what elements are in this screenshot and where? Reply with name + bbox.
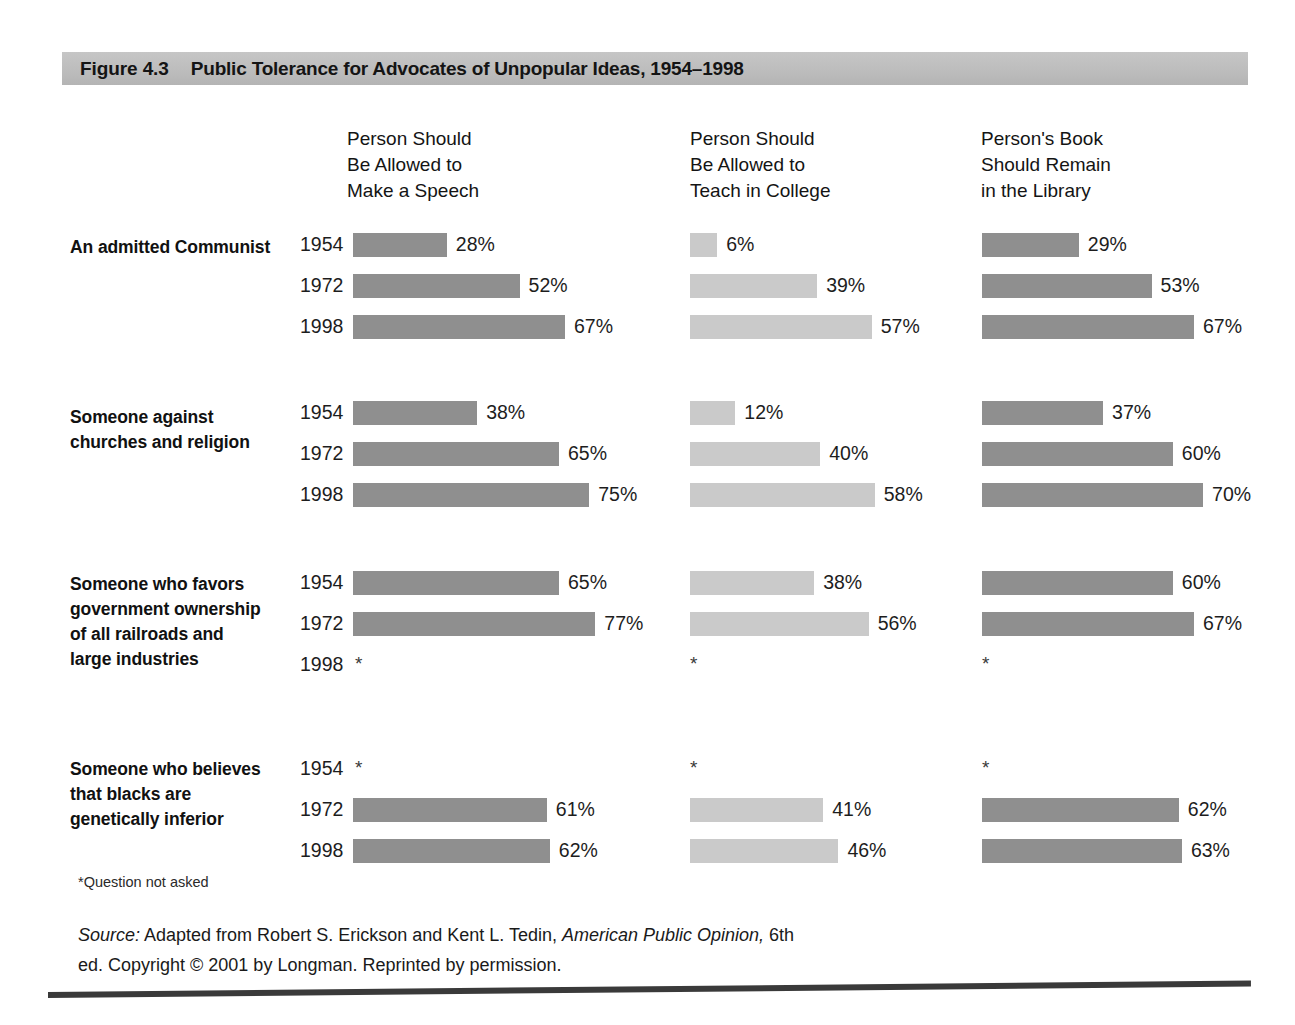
bar-value-label: 38% [823, 566, 862, 599]
source-note: Source: Adapted from Robert S. Erickson … [78, 920, 818, 980]
column-header-teach-in-college: Person Should Be Allowed to Teach in Col… [690, 126, 830, 204]
chart-row: 197265%40%60% [0, 437, 1295, 470]
figure-title: Public Tolerance for Advocates of Unpopu… [191, 58, 744, 80]
source-label: Source: [78, 925, 140, 945]
row-year-label: 1998 [300, 834, 346, 867]
bar [982, 798, 1179, 822]
bar [353, 612, 595, 636]
bar [982, 401, 1103, 425]
chart-row: 195438%12%37% [0, 396, 1295, 429]
source-book-title: American Public Opinion, [562, 925, 764, 945]
row-year-label: 1972 [300, 793, 346, 826]
no-data-asterisk: * [355, 752, 362, 783]
bar-value-label: 65% [568, 566, 607, 599]
bar [353, 798, 547, 822]
chart-row: 195428%6%29% [0, 228, 1295, 261]
chart-row: 1998*** [0, 648, 1295, 681]
chart-row: 197252%39%53% [0, 269, 1295, 302]
bar-value-label: 52% [529, 269, 568, 302]
bar [690, 483, 875, 507]
row-year-label: 1972 [300, 437, 346, 470]
bar-value-label: 62% [559, 834, 598, 867]
bar-value-label: 67% [1203, 310, 1242, 343]
no-data-asterisk: * [355, 648, 362, 679]
bar [982, 571, 1173, 595]
bar-value-label: 60% [1182, 437, 1221, 470]
column-header-make-a-speech: Person Should Be Allowed to Make a Speec… [347, 126, 479, 204]
bar-value-label: 65% [568, 437, 607, 470]
bar-value-label: 40% [829, 437, 868, 470]
bar-value-label: 28% [456, 228, 495, 261]
bar-value-label: 12% [744, 396, 783, 429]
bar [982, 233, 1079, 257]
row-year-label: 1998 [300, 478, 346, 511]
chart-row: 197277%56%67% [0, 607, 1295, 640]
bar [353, 442, 559, 466]
footnote-question-not-asked: *Question not asked [78, 874, 209, 890]
bar [982, 442, 1173, 466]
bar [690, 839, 838, 863]
bar [982, 315, 1194, 339]
bar [353, 315, 565, 339]
column-header-book-in-library: Person's Book Should Remain in the Libra… [981, 126, 1111, 204]
bar [982, 612, 1194, 636]
bar-value-label: 41% [832, 793, 871, 826]
bar [690, 233, 717, 257]
bar-value-label: 77% [604, 607, 643, 640]
bar-value-label: 61% [556, 793, 595, 826]
bar-value-label: 62% [1188, 793, 1227, 826]
figure-number: Figure 4.3 [80, 58, 169, 80]
bar-value-label: 6% [726, 228, 754, 261]
bar [982, 839, 1182, 863]
bar [353, 401, 477, 425]
bar [690, 612, 869, 636]
figure-title-row: Figure 4.3 Public Tolerance for Advocate… [80, 58, 744, 80]
no-data-asterisk: * [982, 752, 989, 783]
row-year-label: 1954 [300, 752, 346, 785]
row-year-label: 1998 [300, 310, 346, 343]
row-year-label: 1954 [300, 566, 346, 599]
bar-value-label: 46% [847, 834, 886, 867]
bar-value-label: 29% [1088, 228, 1127, 261]
bar [690, 442, 820, 466]
chart-row: 197261%41%62% [0, 793, 1295, 826]
row-year-label: 1972 [300, 269, 346, 302]
bar-value-label: 70% [1212, 478, 1251, 511]
figure-title-banner: Figure 4.3 Public Tolerance for Advocate… [62, 52, 1248, 85]
chart-row: 195465%38%60% [0, 566, 1295, 599]
bar [690, 315, 872, 339]
bar [353, 274, 520, 298]
row-year-label: 1954 [300, 228, 346, 261]
chart-row: 199875%58%70% [0, 478, 1295, 511]
bar [690, 401, 735, 425]
bar-value-label: 57% [881, 310, 920, 343]
bar-value-label: 53% [1161, 269, 1200, 302]
bar [353, 571, 559, 595]
bar [982, 274, 1152, 298]
row-year-label: 1972 [300, 607, 346, 640]
bar [353, 839, 550, 863]
bar-value-label: 63% [1191, 834, 1230, 867]
bar [982, 483, 1203, 507]
bar-value-label: 56% [878, 607, 917, 640]
bar-value-label: 38% [486, 396, 525, 429]
bar-value-label: 60% [1182, 566, 1221, 599]
bar [353, 233, 447, 257]
bar-value-label: 37% [1112, 396, 1151, 429]
bar-value-label: 58% [884, 478, 923, 511]
bar [353, 483, 589, 507]
no-data-asterisk: * [690, 648, 697, 679]
bar-value-label: 39% [826, 269, 865, 302]
bar [690, 274, 817, 298]
row-year-label: 1998 [300, 648, 346, 681]
bar-value-label: 67% [1203, 607, 1242, 640]
chart-row: 199867%57%67% [0, 310, 1295, 343]
source-text-before: Adapted from Robert S. Erickson and Kent… [140, 925, 562, 945]
bar [690, 571, 814, 595]
chart-row: 199862%46%63% [0, 834, 1295, 867]
bar-value-label: 67% [574, 310, 613, 343]
row-year-label: 1954 [300, 396, 346, 429]
bottom-rule [48, 980, 1251, 998]
no-data-asterisk: * [982, 648, 989, 679]
no-data-asterisk: * [690, 752, 697, 783]
